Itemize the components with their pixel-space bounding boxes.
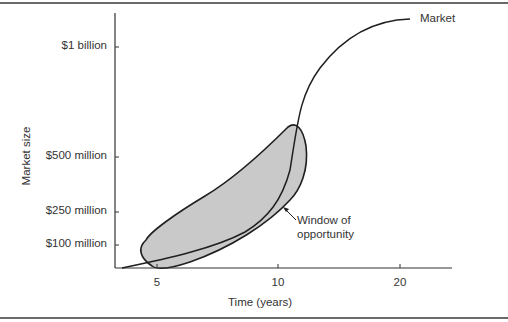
annotation-line-1: Window of: [297, 213, 354, 227]
window-of-opportunity-region: [141, 125, 307, 269]
x-tick-label-10: 10: [263, 276, 293, 288]
y-tick-label-100-million: $100 million: [7, 237, 107, 249]
market-series-label: Market: [420, 12, 455, 24]
window-of-opportunity-annotation: Window of opportunity: [297, 213, 354, 241]
x-axis-title: Time (years): [228, 296, 292, 308]
y-tick-label-250-million: $250 million: [7, 204, 107, 216]
y-tick-label-1-billion: $1 billion: [7, 39, 107, 51]
x-tick-label-20: 20: [385, 276, 415, 288]
annotation-line-2: opportunity: [297, 227, 354, 241]
window-annotation-arrowhead: [283, 207, 289, 212]
y-tick-label-500-million: $500 million: [7, 149, 107, 161]
x-tick-label-5: 5: [142, 276, 172, 288]
